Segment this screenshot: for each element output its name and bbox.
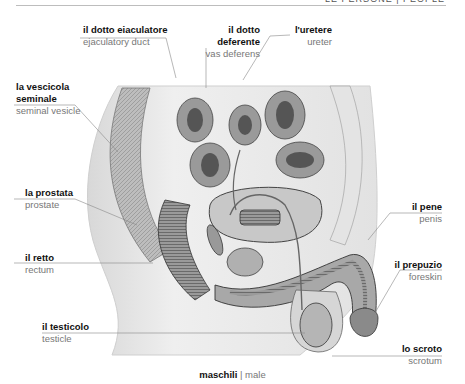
label-it-line2: seminale: [16, 93, 80, 105]
label-it: il pene: [390, 201, 442, 213]
label-en: ureter: [290, 36, 332, 48]
label-foreskin: il prepuzio foreskin: [390, 259, 442, 283]
label-it: la prostata: [25, 187, 73, 199]
label-testicle: il testicolo testicle: [42, 321, 89, 345]
label-vas-deferens: il dotto deferente vas deferens: [198, 24, 260, 60]
label-penis: il pene penis: [390, 201, 442, 225]
label-it: lo scroto: [390, 343, 442, 355]
label-en: foreskin: [390, 271, 442, 283]
label-en: rectum: [25, 264, 54, 276]
caption-it: maschili: [199, 369, 237, 380]
label-en: ejaculatory duct: [83, 36, 167, 48]
label-ejaculatory-duct: il dotto eiaculatore ejaculatory duct: [83, 24, 167, 48]
label-it: l'uretere: [290, 24, 332, 36]
prostate: [227, 248, 263, 276]
label-it: il dotto eiaculatore: [83, 24, 167, 36]
label-en: vas deferens: [198, 48, 260, 60]
label-it-line1: il dotto: [198, 24, 260, 36]
figure-caption: maschili | male: [0, 369, 465, 380]
glans: [350, 308, 378, 336]
testicle: [300, 303, 332, 347]
caption-separator: |: [237, 369, 245, 380]
label-it-line2: deferente: [198, 36, 260, 48]
label-seminal-vesicle: la vescicola seminale seminal vesicle: [16, 81, 80, 117]
label-en: scrotum: [390, 355, 442, 367]
label-it-line1: la vescicola: [16, 81, 80, 93]
label-en: penis: [390, 213, 442, 225]
label-en: seminal vesicle: [16, 105, 80, 117]
label-rectum: il retto rectum: [25, 252, 54, 276]
label-ureter: l'uretere ureter: [290, 24, 332, 48]
label-it: il testicolo: [42, 321, 89, 333]
caption-en: male: [245, 369, 266, 380]
label-en: prostate: [25, 199, 73, 211]
label-scrotum: lo scroto scrotum: [390, 343, 442, 367]
label-en: testicle: [42, 333, 89, 345]
label-it: il retto: [25, 252, 54, 264]
label-prostate: la prostata prostate: [25, 187, 73, 211]
label-it: il prepuzio: [390, 259, 442, 271]
